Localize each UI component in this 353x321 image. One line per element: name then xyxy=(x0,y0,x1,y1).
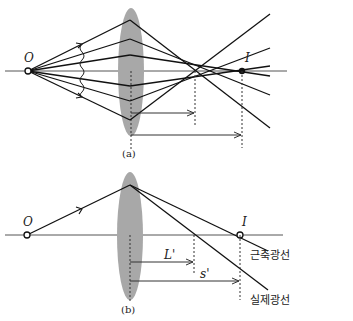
real-ray-b xyxy=(130,185,268,290)
spherical-aberration-diagram: O I (a) O I L' s' 근축광선 실제광선 xyxy=(0,0,353,321)
object-label-b: O xyxy=(23,215,33,229)
object-point-a xyxy=(25,68,31,74)
image-label-b: I xyxy=(241,215,247,229)
real-ray-label: 실제광선 xyxy=(250,294,290,307)
paraxial-ray-b xyxy=(130,185,268,251)
object-point-b xyxy=(24,232,30,238)
caption-a: (a) xyxy=(122,148,136,159)
incident-rays-a xyxy=(28,20,130,120)
figure-a: O I (a) xyxy=(5,8,287,159)
dim-label-L: L' xyxy=(163,248,175,262)
paraxial-ray-label: 근축광선 xyxy=(250,249,290,262)
incident-ray-b xyxy=(27,185,130,235)
caption-b: (b) xyxy=(121,304,135,315)
dim-label-S: s' xyxy=(200,267,209,281)
object-label-a: O xyxy=(24,51,34,65)
figure-b: O I L' s' 근축광선 실제광선 (b) xyxy=(5,172,290,315)
image-label-a: I xyxy=(244,51,250,65)
